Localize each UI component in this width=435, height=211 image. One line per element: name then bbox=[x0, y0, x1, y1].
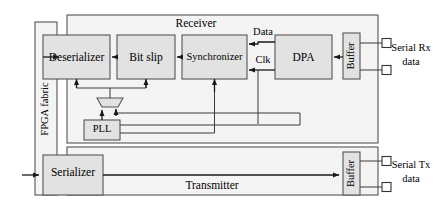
diagram-canvas: FPGA fabric Receiver Transmitter Deseria… bbox=[0, 0, 435, 211]
serial-rx-label-line1: Serial Rx bbox=[391, 42, 431, 53]
synchronizer-label: Synchronizer bbox=[187, 51, 243, 62]
clk-signal-label: Clk bbox=[255, 54, 271, 65]
pin-rx-positive[interactable] bbox=[382, 39, 391, 48]
serializer-label: Serializer bbox=[51, 166, 95, 178]
pll-label: PLL bbox=[93, 123, 112, 134]
pin-rx-negative[interactable] bbox=[382, 66, 391, 75]
buffer-tx-label: Buffer bbox=[345, 159, 356, 187]
fpga-fabric-label: FPGA fabric bbox=[39, 82, 50, 136]
data-signal-label: Data bbox=[253, 26, 273, 37]
pin-tx-negative[interactable] bbox=[382, 183, 391, 192]
transmitter-label: Transmitter bbox=[185, 179, 238, 191]
serial-tx-label-line1: Serial Tx bbox=[392, 159, 431, 170]
pin-tx-positive[interactable] bbox=[382, 157, 391, 166]
bit-slip-label: Bit slip bbox=[129, 51, 163, 64]
receiver-label: Receiver bbox=[176, 17, 217, 29]
buffer-rx-label: Buffer bbox=[345, 42, 356, 70]
dpa-label: DPA bbox=[293, 51, 316, 63]
clock-mux[interactable] bbox=[97, 98, 123, 107]
block-diagram: FPGA fabric Receiver Transmitter Deseria… bbox=[0, 0, 435, 211]
serial-rx-label-line2: data bbox=[402, 56, 420, 67]
serial-tx-label-line2: data bbox=[402, 173, 420, 184]
